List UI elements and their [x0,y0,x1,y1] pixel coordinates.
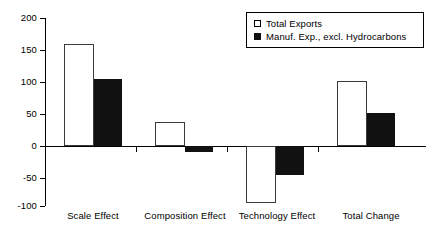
x-separator-tick [318,147,319,152]
legend-item-total-exports: Total Exports [254,17,416,30]
y-tick-mark [40,82,45,83]
y-tick-label: 50 [0,107,37,120]
y-tick-mark [40,18,45,19]
x-axis-label-total-change: Total Change [321,209,421,222]
y-tick-label: 100 [0,75,37,88]
bar-scale-effect-total-exports [64,44,94,146]
y-tick-mark [40,206,45,207]
chart-legend: Total Exports Manuf. Exp., excl. Hydroca… [246,12,424,48]
legend-label: Manuf. Exp., excl. Hydrocarbons [266,30,406,43]
legend-item-manuf-exports: Manuf. Exp., excl. Hydrocarbons [254,30,416,43]
y-tick-label: 0 [0,139,37,152]
y-tick-mark [40,50,45,51]
y-tick-mark [40,178,45,179]
y-tick-mark [40,114,45,115]
y-tick-label: 200 [0,11,37,24]
y-tick-label: -50 [0,171,37,184]
y-tick-label: 150 [0,43,37,56]
x-axis-label-technology-effect: Technology Effect [222,209,332,222]
bar-technology-effect-total-exports [246,146,276,203]
bar-technology-effect-manuf-exports [276,146,304,175]
bar-scale-effect-manuf-exports [94,79,122,146]
x-separator-tick [227,147,228,152]
bar-composition-effect-manuf-exports [185,146,213,152]
x-separator-tick [136,147,137,152]
y-tick-label: -100 [0,199,37,212]
open-square-swatch-icon [254,20,261,27]
filled-square-swatch-icon [254,33,261,40]
bar-total-change-manuf-exports [367,113,395,146]
bar-composition-effect-total-exports [155,122,185,146]
bar-chart: 200 150 100 50 0 -50 -100 Scale Effect [0,0,432,231]
y-axis-line [45,18,46,206]
legend-label: Total Exports [266,17,322,30]
bar-total-change-total-exports [337,81,367,146]
x-axis-zero-line [45,146,426,147]
